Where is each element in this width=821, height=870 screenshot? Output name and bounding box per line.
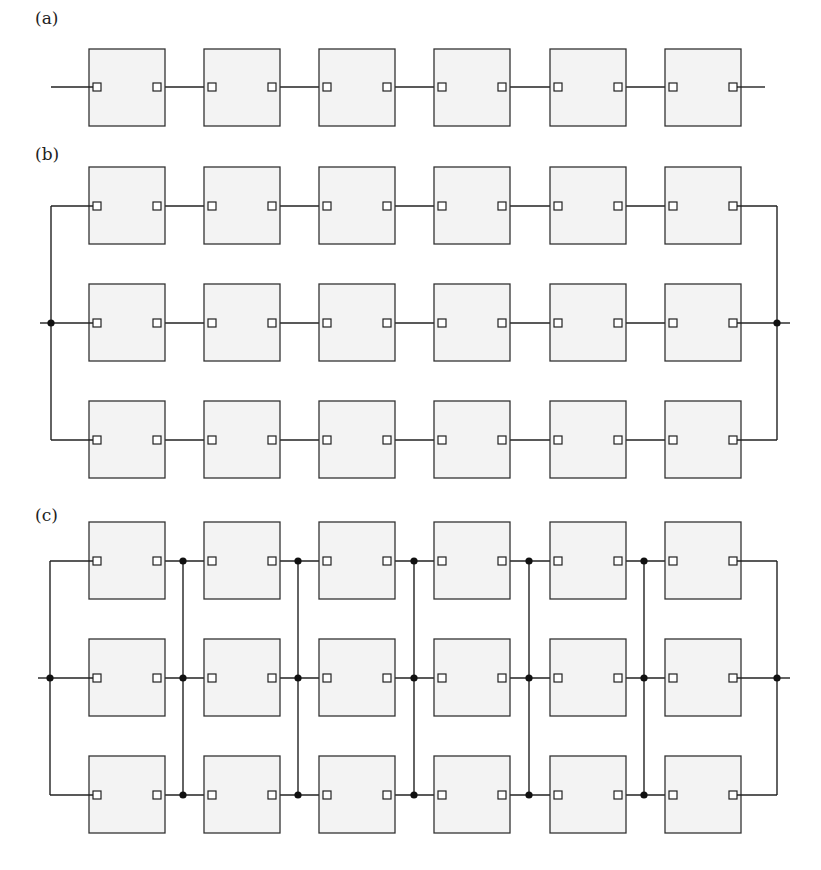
- terminal-port: [498, 319, 506, 327]
- junction-dot: [179, 791, 186, 798]
- terminal-port: [438, 436, 446, 444]
- terminal-port: [153, 557, 161, 565]
- terminal-port: [669, 83, 677, 91]
- terminal-port: [554, 202, 562, 210]
- terminal-port: [554, 436, 562, 444]
- terminal-port: [498, 674, 506, 682]
- terminal-port: [323, 319, 331, 327]
- junction-dot: [525, 791, 532, 798]
- terminal-port: [498, 436, 506, 444]
- junction-dot: [410, 557, 417, 564]
- terminal-port: [729, 436, 737, 444]
- junction-dot: [773, 674, 780, 681]
- terminal-port: [383, 83, 391, 91]
- terminal-port: [554, 319, 562, 327]
- terminal-port: [498, 557, 506, 565]
- junction-dot: [410, 674, 417, 681]
- panel-c: [38, 522, 790, 833]
- terminal-port: [153, 436, 161, 444]
- terminal-port: [438, 557, 446, 565]
- terminal-port: [208, 202, 216, 210]
- terminal-port: [93, 436, 101, 444]
- terminal-port: [438, 83, 446, 91]
- terminal-port: [268, 319, 276, 327]
- terminal-port: [669, 791, 677, 799]
- terminal-port: [323, 674, 331, 682]
- terminal-port: [323, 557, 331, 565]
- terminal-port: [383, 557, 391, 565]
- terminal-port: [208, 83, 216, 91]
- terminal-port: [268, 202, 276, 210]
- junction-dot: [410, 791, 417, 798]
- terminal-port: [438, 791, 446, 799]
- junction-dot: [640, 791, 647, 798]
- terminal-port: [208, 791, 216, 799]
- terminal-port: [268, 557, 276, 565]
- junction-dot: [525, 557, 532, 564]
- terminal-port: [438, 674, 446, 682]
- terminal-port: [669, 674, 677, 682]
- terminal-port: [383, 436, 391, 444]
- terminal-port: [438, 319, 446, 327]
- terminal-port: [498, 791, 506, 799]
- terminal-port: [323, 436, 331, 444]
- terminal-port: [729, 557, 737, 565]
- terminal-port: [729, 202, 737, 210]
- terminal-port: [614, 83, 622, 91]
- junction-dot: [179, 557, 186, 564]
- terminal-port: [268, 83, 276, 91]
- junction-dot: [179, 674, 186, 681]
- terminal-port: [208, 436, 216, 444]
- junction-dot: [640, 674, 647, 681]
- terminal-port: [669, 202, 677, 210]
- terminal-port: [729, 83, 737, 91]
- terminal-port: [498, 83, 506, 91]
- terminal-port: [323, 83, 331, 91]
- junction-dot: [773, 319, 780, 326]
- terminal-port: [438, 202, 446, 210]
- terminal-port: [498, 202, 506, 210]
- terminal-port: [669, 557, 677, 565]
- terminal-port: [554, 83, 562, 91]
- terminal-port: [208, 319, 216, 327]
- terminal-port: [729, 319, 737, 327]
- terminal-port: [153, 202, 161, 210]
- terminal-port: [93, 557, 101, 565]
- terminal-port: [268, 436, 276, 444]
- terminal-port: [93, 791, 101, 799]
- junction-dot: [294, 791, 301, 798]
- terminal-port: [614, 674, 622, 682]
- terminal-port: [383, 202, 391, 210]
- terminal-port: [93, 202, 101, 210]
- junction-dot: [294, 557, 301, 564]
- terminal-port: [383, 319, 391, 327]
- terminal-port: [554, 674, 562, 682]
- junction-dot: [47, 319, 54, 326]
- junction-dot: [640, 557, 647, 564]
- panel-a: [51, 49, 765, 126]
- terminal-port: [669, 436, 677, 444]
- terminal-port: [383, 674, 391, 682]
- terminal-port: [268, 791, 276, 799]
- terminal-port: [153, 674, 161, 682]
- terminal-port: [614, 202, 622, 210]
- terminal-port: [208, 557, 216, 565]
- terminal-port: [614, 436, 622, 444]
- terminal-port: [614, 791, 622, 799]
- terminal-port: [554, 557, 562, 565]
- terminal-port: [729, 791, 737, 799]
- terminal-port: [614, 319, 622, 327]
- terminal-port: [383, 791, 391, 799]
- terminal-port: [93, 674, 101, 682]
- terminal-port: [153, 319, 161, 327]
- terminal-port: [153, 791, 161, 799]
- junction-dot: [294, 674, 301, 681]
- terminal-port: [323, 791, 331, 799]
- terminal-port: [93, 83, 101, 91]
- terminal-port: [729, 674, 737, 682]
- junction-dot: [525, 674, 532, 681]
- terminal-port: [93, 319, 101, 327]
- module-array-diagram: [0, 0, 821, 870]
- junction-dot: [46, 674, 53, 681]
- panel-b: [40, 167, 790, 478]
